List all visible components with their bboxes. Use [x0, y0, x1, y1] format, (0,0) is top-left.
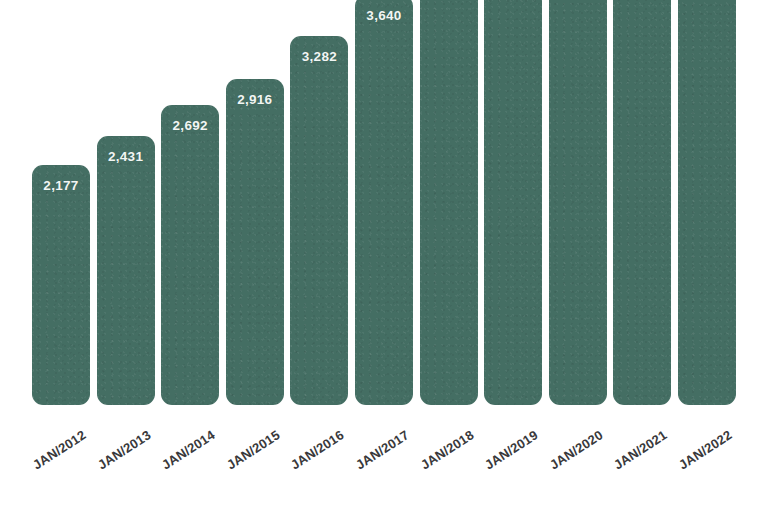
bar[interactable]: [355, 0, 413, 405]
bar[interactable]: [97, 136, 155, 405]
bar-group: 2,177: [32, 165, 90, 405]
bar-value-label: 3,282: [290, 49, 348, 64]
bar-value-label: 2,916: [226, 92, 284, 107]
bar-group: 4,418: [549, 0, 607, 405]
bar-group: 2,916: [226, 79, 284, 405]
bar-group: 3,640: [355, 0, 413, 405]
bar[interactable]: [226, 79, 284, 405]
bar[interactable]: [420, 0, 478, 405]
bar-group: 3,282: [290, 36, 348, 405]
bar-chart: 2,1772,4312,6922,9163,2823,6403,9504,212…: [0, 0, 759, 508]
bar[interactable]: [32, 165, 90, 405]
bar[interactable]: [484, 0, 542, 405]
bar-group: 3,950: [420, 0, 478, 405]
bar-group: 4,758: [613, 0, 671, 405]
bar-value-label: 2,692: [161, 118, 219, 133]
bar-group: 2,431: [97, 136, 155, 405]
plot-area: 2,1772,4312,6922,9163,2823,6403,9504,212…: [0, 0, 759, 508]
bar[interactable]: [613, 0, 671, 405]
bar-value-label: 2,177: [32, 178, 90, 193]
bar[interactable]: [549, 0, 607, 405]
bar-group: 4,212: [484, 0, 542, 405]
bar-value-label: 3,640: [355, 8, 413, 23]
bar[interactable]: [161, 105, 219, 405]
bar-value-label: 2,431: [97, 149, 155, 164]
bar-group: 4,950: [678, 0, 736, 405]
bar[interactable]: [678, 0, 736, 405]
bar-group: 2,692: [161, 105, 219, 405]
bar[interactable]: [290, 36, 348, 405]
